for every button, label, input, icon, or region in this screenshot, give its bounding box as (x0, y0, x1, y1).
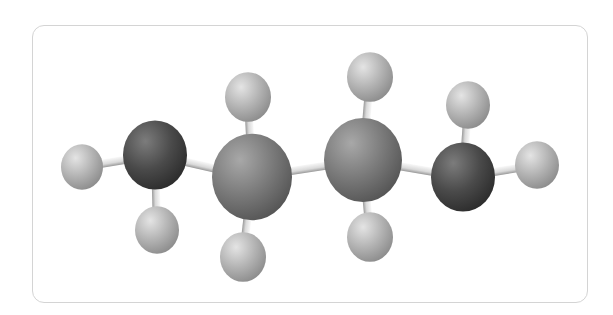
hydrogen-atom-h7 (446, 81, 490, 129)
hydrogen-atom-h5 (347, 52, 393, 102)
hydrogen-atom-h2 (135, 206, 179, 254)
carbon-atom-c3 (324, 118, 402, 202)
carbon-atom-c2 (212, 134, 292, 220)
hydrogen-atom-h8 (515, 141, 559, 189)
butane-molecule-model (0, 0, 613, 315)
hydrogen-atom-h6 (347, 212, 393, 262)
hydrogen-atom-h3 (225, 72, 271, 122)
carbon-atom-c4 (431, 142, 495, 211)
hydrogen-atom-h4 (220, 232, 266, 282)
hydrogen-atom-h1 (61, 144, 103, 189)
carbon-atom-c1 (123, 120, 187, 189)
